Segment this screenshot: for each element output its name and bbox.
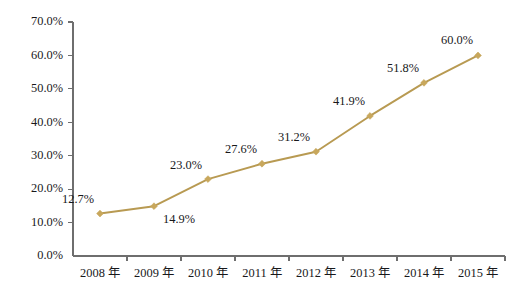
x-axis-group: 2008 年2009 年2010 年2011 年2012 年2013 年2014… bbox=[73, 256, 505, 280]
data-point-label: 60.0% bbox=[441, 33, 473, 47]
y-axis-tick-label: 10.0% bbox=[31, 215, 63, 229]
x-axis-tick-label: 2012 年 bbox=[296, 266, 336, 280]
data-point-marker bbox=[205, 176, 212, 183]
chart-canvas: 0.0%10.0%20.0%30.0%40.0%50.0%60.0%70.0% … bbox=[0, 0, 527, 295]
y-axis-tick-labels: 0.0%10.0%20.0%30.0%40.0%50.0%60.0%70.0% bbox=[31, 14, 63, 262]
line-chart-figure: 0.0%10.0%20.0%30.0%40.0%50.0%60.0%70.0% … bbox=[0, 0, 527, 295]
y-axis-tick-label: 60.0% bbox=[31, 48, 63, 62]
y-axis-tick-label: 70.0% bbox=[31, 14, 63, 28]
x-axis-tick-label: 2009 年 bbox=[134, 266, 174, 280]
data-point-label: 51.8% bbox=[387, 61, 419, 75]
data-point-label: 41.9% bbox=[333, 94, 365, 108]
data-point-marker bbox=[97, 210, 104, 217]
y-axis-group: 0.0%10.0%20.0%30.0%40.0%50.0%60.0%70.0% bbox=[31, 14, 73, 262]
x-axis-tick-label: 2014 年 bbox=[404, 266, 444, 280]
x-axis-tick-label: 2008 年 bbox=[80, 266, 120, 280]
y-axis-tick-label: 20.0% bbox=[31, 181, 63, 195]
series-data-labels: 12.7%14.9%23.0%27.6%31.2%41.9%51.8%60.0% bbox=[62, 33, 473, 226]
data-point-marker bbox=[475, 52, 482, 59]
data-point-label: 27.6% bbox=[225, 142, 257, 156]
data-point-label: 23.0% bbox=[170, 158, 202, 172]
x-axis-ticks bbox=[127, 256, 505, 261]
y-axis-tick-label: 50.0% bbox=[31, 81, 63, 95]
data-series-group: 12.7%14.9%23.0%27.6%31.2%41.9%51.8%60.0% bbox=[62, 33, 481, 226]
y-axis-tick-label: 40.0% bbox=[31, 115, 63, 129]
x-axis-tick-label: 2010 年 bbox=[188, 266, 228, 280]
x-axis-tick-label: 2013 年 bbox=[350, 266, 390, 280]
data-point-marker bbox=[259, 160, 266, 167]
data-point-label: 14.9% bbox=[163, 212, 195, 226]
x-axis-tick-label: 2015 年 bbox=[458, 266, 498, 280]
y-axis-tick-label: 30.0% bbox=[31, 148, 63, 162]
x-axis-tick-labels: 2008 年2009 年2010 年2011 年2012 年2013 年2014… bbox=[80, 266, 498, 280]
data-point-label: 12.7% bbox=[62, 192, 94, 206]
y-axis-tick-label: 0.0% bbox=[37, 248, 63, 262]
data-point-marker bbox=[151, 203, 158, 210]
data-point-label: 31.2% bbox=[278, 130, 310, 144]
x-axis-tick-label: 2011 年 bbox=[242, 266, 281, 280]
